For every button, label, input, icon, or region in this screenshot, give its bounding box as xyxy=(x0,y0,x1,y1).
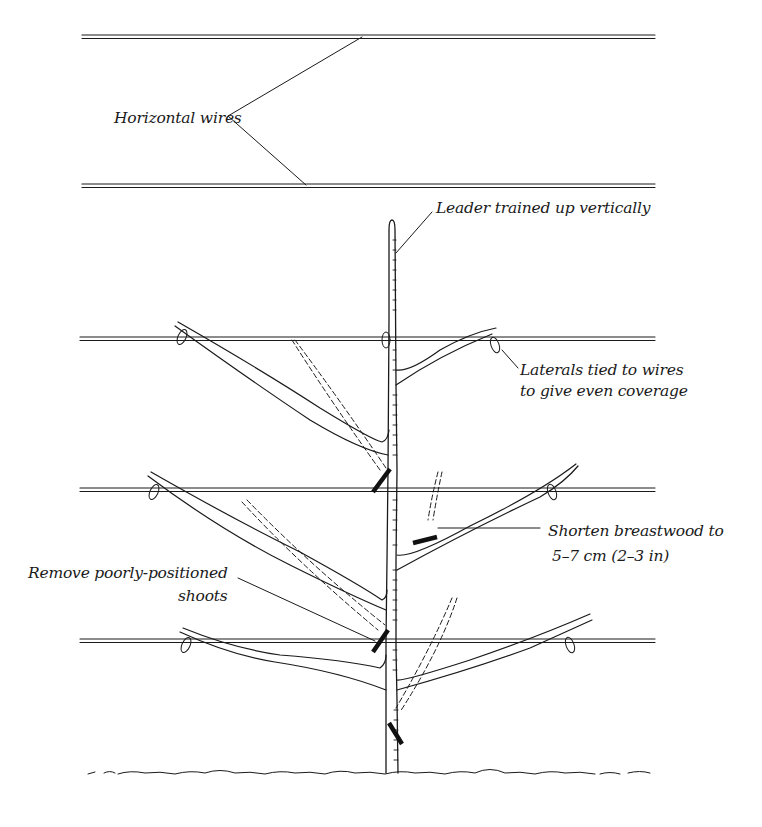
wires-pointer xyxy=(228,37,362,185)
trunk xyxy=(386,220,398,773)
label-horizontal-wires: Horizontal wires xyxy=(114,108,242,128)
laterals-pointer xyxy=(502,350,518,368)
wire-top-1 xyxy=(82,35,655,39)
label-remove-line1: Remove poorly-positioned xyxy=(28,563,228,583)
espalier-diagram: Horizontal wires Leader trained up verti… xyxy=(0,0,762,827)
cut-mark-2 xyxy=(413,537,437,543)
label-leader: Leader trained up vertically xyxy=(436,198,650,218)
lateral-tier3-left xyxy=(180,628,386,690)
label-breastwood-line1: Shorten breastwood to xyxy=(548,521,724,541)
label-remove-line2: shoots xyxy=(178,586,228,606)
wire-tier-1 xyxy=(80,337,655,341)
label-laterals-line2: to give even coverage xyxy=(520,381,688,401)
lateral-tier1-left xyxy=(175,322,389,455)
leader-pointer xyxy=(396,212,432,253)
lateral-tier2-right xyxy=(397,464,578,570)
cut-marks xyxy=(373,469,437,744)
wire-top-2 xyxy=(82,184,655,188)
wire-tier-3 xyxy=(80,639,655,643)
ground-line xyxy=(88,770,650,775)
label-laterals-line1: Laterals tied to wires xyxy=(520,360,683,380)
label-breastwood-line2: 5–7 cm (2–3 in) xyxy=(552,546,669,566)
cut-mark-4 xyxy=(389,723,402,744)
